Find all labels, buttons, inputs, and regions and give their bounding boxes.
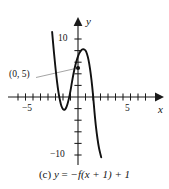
marked-point-0-5 <box>76 66 80 70</box>
x-tick-label-neg5: −5 <box>22 104 32 114</box>
y-axis-arrowhead <box>74 17 83 26</box>
y-tick-label-neg10: −10 <box>50 150 65 160</box>
math-figure-panel: y x 10 −10 −5 5 (0, 5) (c) y = −f(x + 1)… <box>0 0 169 189</box>
figure-caption: (c) y = −f(x + 1) + 1 <box>0 168 169 180</box>
point-annotation-label: (0, 5) <box>9 70 30 80</box>
x-tick-label-5: 5 <box>125 104 130 114</box>
caption-index: (c) <box>39 168 51 180</box>
graph-plot-area <box>0 0 169 170</box>
caption-rhs: −f(x + 1) + 1 <box>71 168 131 180</box>
y-axis-label: y <box>86 16 91 27</box>
x-axis-label: x <box>158 104 163 115</box>
y-tick-label-10: 10 <box>58 34 68 44</box>
x-axis-arrowhead <box>155 93 164 102</box>
